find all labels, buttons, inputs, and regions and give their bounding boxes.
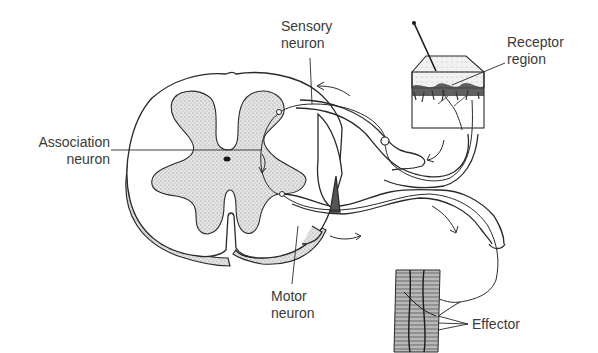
label-effector: Effector [472,316,520,333]
label-sensory-neuron: Sensory neuron [281,18,332,52]
label-motor-neuron-line1: Motor [271,288,315,305]
label-receptor-region-line2: region [507,51,564,68]
arrow-receptor [428,140,444,160]
label-motor-neuron-line2: neuron [271,305,315,322]
label-sensory-neuron-line1: Sensory [281,18,332,35]
label-receptor-region: Receptor region [507,34,564,68]
skin-receptor-block [412,21,484,130]
label-sensory-neuron-line2: neuron [281,35,332,52]
label-receptor-region-line1: Receptor [507,34,564,51]
label-association-neuron-line1: Association [24,134,110,151]
arrow-dorsal [318,86,350,96]
sensory-neuron-axon [385,100,472,181]
label-effector-line1: Effector [472,316,520,333]
label-association-neuron: Association neuron [24,134,110,168]
label-association-neuron-line2: neuron [24,151,110,168]
leader-effector-3 [438,324,468,330]
central-canal [224,157,231,162]
arrow-effector [432,206,456,232]
muscle-effector [394,270,440,352]
label-motor-neuron: Motor neuron [271,288,315,322]
dorsal-root-ganglion [381,137,389,145]
arrow-ventral [330,236,360,239]
